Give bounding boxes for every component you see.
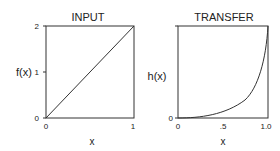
input-xtick-1: 1	[131, 122, 136, 131]
transfer-xtick-1: 1.0	[260, 122, 272, 131]
input-xtick-0: 0	[44, 122, 49, 131]
input-title: INPUT	[72, 11, 105, 23]
input-ytick-0: 0	[35, 114, 40, 123]
transfer-panel: TRANSFER 0 0 .5 1.0 x h(x)	[148, 11, 273, 147]
transfer-xtick-0: 0	[176, 122, 181, 131]
transfer-axes-box	[178, 26, 268, 118]
input-ytick-2: 2	[35, 22, 40, 31]
input-ylabel: f(x)	[16, 66, 32, 78]
transfer-curve	[178, 26, 268, 118]
transfer-title: TRANSFER	[194, 11, 253, 23]
input-panel: INPUT 2 1 0 0 1 x f(x)	[16, 11, 136, 147]
input-xlabel: x	[90, 136, 95, 147]
input-line	[46, 26, 134, 118]
transfer-ylabel: h(x)	[148, 70, 167, 82]
transfer-xlabel: x	[221, 136, 226, 147]
input-ytick-1: 1	[35, 68, 40, 77]
transfer-ytick-0: 0	[169, 114, 174, 123]
chart-figure: INPUT 2 1 0 0 1 x f(x) TRANSFER 0 0 .5 1…	[0, 0, 280, 151]
transfer-xtick-05: .5	[220, 122, 227, 131]
